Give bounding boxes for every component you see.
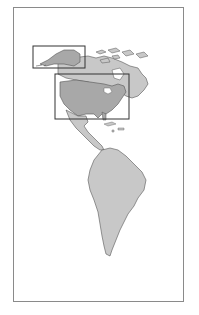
- arctic-islands: [96, 48, 148, 63]
- alaska: [40, 50, 80, 66]
- south-america: [88, 148, 146, 256]
- caribbean-islands: [104, 122, 124, 132]
- americas-map: [0, 0, 199, 315]
